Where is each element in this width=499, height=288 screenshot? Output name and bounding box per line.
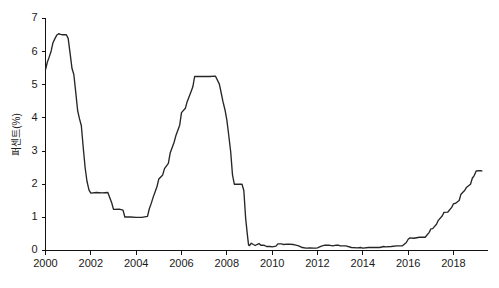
y-tick-label: 7 <box>31 11 37 23</box>
y-tick-label: 5 <box>31 78 37 90</box>
x-tick-label: 2006 <box>169 257 193 269</box>
x-tick-label: 2012 <box>305 257 329 269</box>
x-tick-label: 2000 <box>33 257 57 269</box>
y-axis-title-text: 퍼센트(%) <box>11 113 22 156</box>
y-axis-title: 퍼센트(%) <box>11 113 22 156</box>
y-tick-label: 4 <box>31 111 37 123</box>
y-tick-label: 6 <box>31 45 37 57</box>
y-tick-label: 3 <box>31 144 37 156</box>
chart-figure: 01234567 2000200220042006200820102012201… <box>0 0 499 288</box>
x-tick-label: 2018 <box>441 257 465 269</box>
y-tick-label: 2 <box>31 177 37 189</box>
x-tick-label: 2014 <box>351 257 375 269</box>
x-tick-label: 2004 <box>124 257 148 269</box>
y-tick-label: 0 <box>31 243 37 255</box>
y-tick-label: 1 <box>31 210 37 222</box>
x-tick-label: 2010 <box>260 257 284 269</box>
x-tick-label: 2002 <box>79 257 103 269</box>
x-tick-label: 2016 <box>396 257 420 269</box>
chart-svg: 01234567 2000200220042006200820102012201… <box>0 0 499 288</box>
x-tick-label: 2008 <box>215 257 239 269</box>
